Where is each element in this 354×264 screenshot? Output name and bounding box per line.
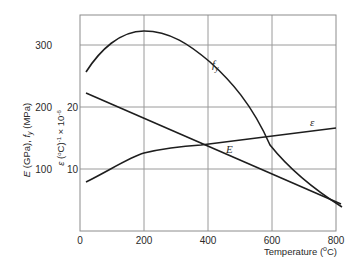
- curve-label-fy: fy: [212, 58, 219, 73]
- x-tick: 600: [264, 235, 281, 246]
- curve-label-E: E: [225, 143, 233, 155]
- x-tick: 400: [200, 235, 217, 246]
- x-axis-label: Temperature (oC): [264, 245, 337, 257]
- chart-canvas: 0 200 400 600 800 Temperature (oC) 100 2…: [0, 0, 354, 264]
- curve-E: [86, 93, 341, 204]
- y-axis-ticks-primary: 100 200 300: [35, 40, 52, 175]
- x-tick: 800: [328, 235, 345, 246]
- y-axis-label-primary: E (GPa), fy (MPa): [21, 103, 34, 177]
- y-tick: 200: [35, 102, 52, 113]
- y-axis-ticks-secondary: 10 20: [67, 102, 79, 175]
- y-axis-label-secondary: ε (oC)-1 × 10-6: [55, 110, 66, 166]
- x-axis-ticks: 0 200 400 600 800: [77, 235, 345, 246]
- y-tick: 100: [35, 164, 52, 175]
- y2-tick: 10: [67, 164, 79, 175]
- x-tick: 200: [136, 235, 153, 246]
- x-tick: 0: [77, 235, 83, 246]
- gridlines: [80, 15, 336, 231]
- y-tick: 300: [35, 40, 52, 51]
- curve-label-epsilon: ε: [310, 116, 315, 128]
- y2-tick: 20: [67, 102, 79, 113]
